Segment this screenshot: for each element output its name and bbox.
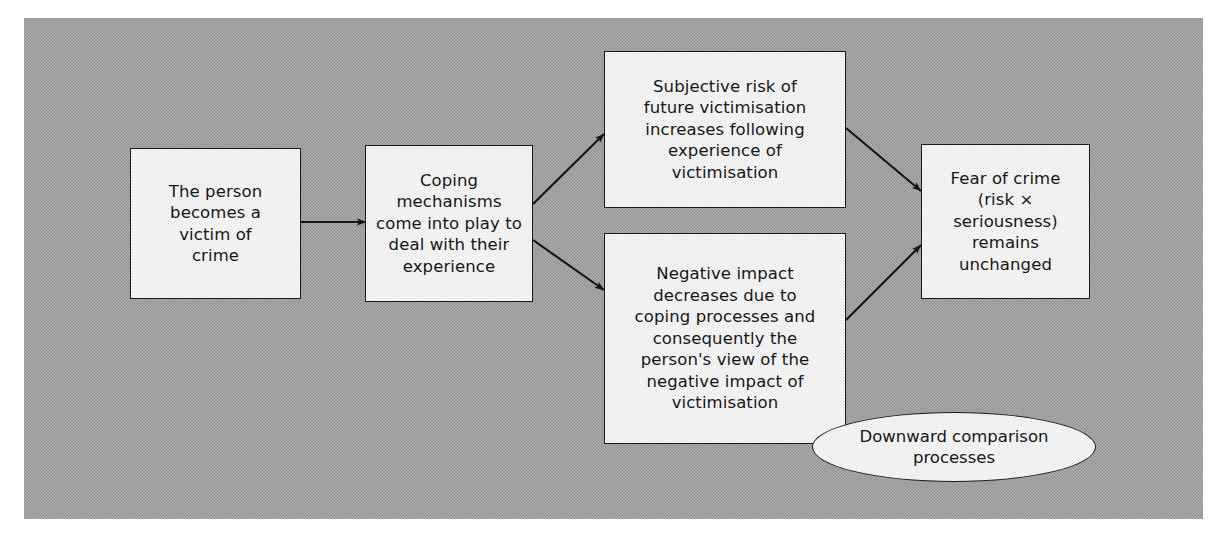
node-subjective-risk[interactable]: Subjective risk of future victimisation … bbox=[604, 51, 846, 208]
diagram-canvas: The person becomes a victim of crime Cop… bbox=[0, 0, 1220, 537]
node-victim-label: The person becomes a victim of crime bbox=[169, 181, 263, 267]
node-coping[interactable]: Coping mechanisms come into play to deal… bbox=[365, 145, 533, 302]
node-negative-impact-label: Negative impact decreases due to coping … bbox=[635, 263, 816, 413]
node-fear-of-crime-label: Fear of crime (risk × seriousness) remai… bbox=[951, 168, 1061, 275]
node-coping-label: Coping mechanisms come into play to deal… bbox=[376, 170, 522, 277]
node-negative-impact[interactable]: Negative impact decreases due to coping … bbox=[604, 233, 846, 444]
node-fear-of-crime[interactable]: Fear of crime (risk × seriousness) remai… bbox=[921, 144, 1090, 299]
node-downward-comparison-label: Downward comparison processes bbox=[860, 426, 1049, 469]
node-downward-comparison[interactable]: Downward comparison processes bbox=[812, 412, 1096, 482]
node-subjective-risk-label: Subjective risk of future victimisation … bbox=[644, 76, 806, 183]
node-victim[interactable]: The person becomes a victim of crime bbox=[130, 148, 301, 299]
